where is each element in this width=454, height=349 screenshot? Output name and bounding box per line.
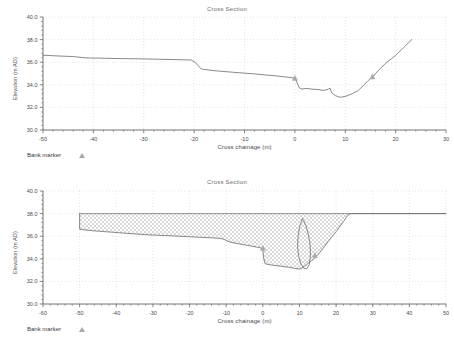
x-tick-label: 40 (406, 310, 412, 316)
x-tick-label: -50 (76, 310, 84, 316)
legend-label-bank-marker: Bank marker (27, 326, 61, 332)
ground-profile-line (43, 40, 412, 98)
x-tick-label: 10 (342, 136, 348, 142)
x-tick-label: -30 (140, 136, 148, 142)
cross-section-panel-bottom: Cross Section Elevation (m AD) Cross cha… (0, 175, 454, 349)
y-tick-label: 30.0 (27, 127, 38, 133)
x-tick-label: 0 (293, 136, 296, 142)
x-tick-label: -10 (222, 310, 230, 316)
y-tick-label: 40.0 (27, 188, 38, 194)
triangle-marker-icon (79, 153, 85, 158)
x-tick-label: -40 (112, 310, 120, 316)
x-tick-label: -30 (149, 310, 157, 316)
y-tick-label: 34.0 (27, 82, 38, 88)
x-tick-label: -10 (241, 136, 249, 142)
cross-section-panel-top: Cross Section Elevation (m AD) Cross cha… (0, 0, 454, 175)
legend-label-bank-marker: Bank marker (27, 152, 61, 158)
y-tick-label: 36.0 (27, 233, 38, 239)
x-tick-label: -20 (190, 136, 198, 142)
y-tick-label: 40.0 (27, 14, 38, 20)
y-tick-label: 38.0 (27, 211, 38, 217)
y-tick-label: 32.0 (27, 278, 38, 284)
x-tick-label: 10 (296, 310, 302, 316)
x-tick-label: -20 (186, 310, 194, 316)
y-tick-label: 38.0 (27, 37, 38, 43)
x-tick-label: 30 (443, 136, 449, 142)
plot-area-bottom: -60-50-40-30-20-100102030405030.032.034.… (0, 175, 454, 349)
x-tick-label: 20 (393, 136, 399, 142)
y-tick-label: 32.0 (27, 104, 38, 110)
x-tick-label: -40 (89, 136, 97, 142)
x-tick-label: 0 (261, 310, 264, 316)
y-tick-label: 36.0 (27, 59, 38, 65)
plot-area-top: -50-40-30-20-10010203030.032.034.036.038… (0, 0, 454, 175)
triangle-marker-icon (79, 327, 85, 332)
legend-bottom: Bank marker (27, 326, 85, 332)
y-tick-label: 30.0 (27, 301, 38, 307)
legend-top: Bank marker (27, 152, 85, 158)
x-tick-label: -60 (39, 310, 47, 316)
x-tick-label: 50 (443, 310, 449, 316)
x-tick-label: 30 (370, 310, 376, 316)
y-tick-label: 34.0 (27, 256, 38, 262)
x-tick-label: -50 (39, 136, 47, 142)
x-tick-label: 20 (333, 310, 339, 316)
